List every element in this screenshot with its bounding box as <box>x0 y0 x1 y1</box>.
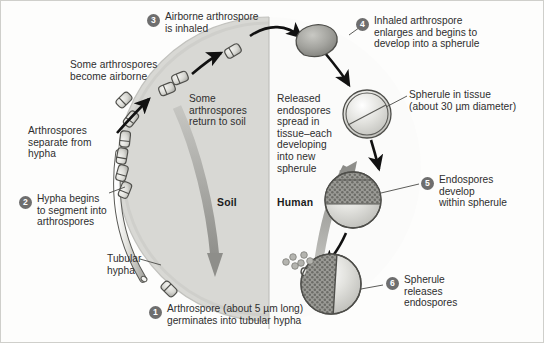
annotation-some-arthrospores-return-to-soil: Some arthrospores return to soil <box>189 93 247 128</box>
step-badge-6: 6 <box>386 277 399 290</box>
step-badge-5: 5 <box>421 177 434 190</box>
step-text-3: Airborne arthrospore is inhaled <box>165 11 258 34</box>
step-text-2: Hypha begins to segment into arthrospore… <box>37 193 107 228</box>
step-badge-3: 3 <box>147 14 160 27</box>
annotation-some-arthrospores-become-airborne: Some arthrospores become airborne <box>70 59 157 82</box>
annotation-tubular-hypha: Tubular hypha <box>107 253 142 276</box>
annotation-spherule-in-tissue: Spherule in tissue (about 30 µm diameter… <box>409 89 516 112</box>
step-badge-2: 2 <box>19 196 32 209</box>
step-text-4: Inhaled arthrospore enlarges and begins … <box>374 15 479 50</box>
step-badge-1: 1 <box>149 306 162 319</box>
step-text-1: Arthrospore (about 5 µm long) germinates… <box>167 303 303 326</box>
annotation-arthrospores-separate-from-hypha: Arthrospores separate from hypha <box>28 125 92 160</box>
life-cycle-diagram: Soil Human Some arthrospores become airb… <box>0 0 544 343</box>
diagram-canvas <box>1 1 544 343</box>
annotation-released-endospores-spread: Released endospores spread in tissue–eac… <box>277 93 332 174</box>
region-label-soil: Soil <box>217 197 237 209</box>
region-label-human: Human <box>277 197 313 209</box>
step-badge-4: 4 <box>356 18 369 31</box>
step-text-6: Spherule releases endospores <box>404 274 457 309</box>
spherule-in-tissue-shape <box>343 90 391 138</box>
step-text-5: Endospores develop within spherule <box>439 174 507 209</box>
